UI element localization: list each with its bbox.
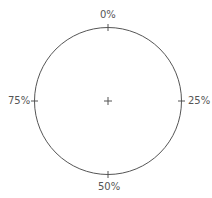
tick-label-0: 0%: [100, 9, 116, 21]
center-cross-icon: [104, 97, 112, 105]
pie-chart: [0, 0, 212, 198]
tick-label-25: 25%: [188, 95, 210, 107]
tick-label-50: 50%: [98, 181, 120, 193]
tick-label-75: 75%: [8, 95, 30, 107]
